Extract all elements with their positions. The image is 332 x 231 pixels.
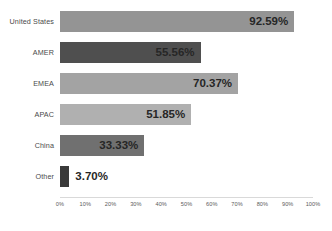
x-tick-90pct: 90%	[282, 201, 294, 207]
bar-track: 51.85%	[60, 104, 313, 125]
x-tick-70pct: 70%	[231, 201, 243, 207]
bar-other[interactable]	[60, 166, 69, 187]
bar-rows: United States 92.59% AMER 55.56% EMEA 70…	[0, 11, 332, 197]
bar-row: Other 3.70%	[0, 166, 332, 187]
category-label-china: China	[0, 135, 54, 156]
bar-row: EMEA 70.37%	[0, 73, 332, 94]
bar-track: 70.37%	[60, 73, 313, 94]
bar-value-united-states: 92.59%	[60, 11, 294, 32]
bar-value-other: 3.70%	[69, 166, 108, 187]
bar-row: AMER 55.56%	[0, 42, 332, 63]
x-tick-50pct: 50%	[181, 201, 193, 207]
x-axis-line	[60, 197, 313, 198]
bar-row: United States 92.59%	[0, 11, 332, 32]
bar-row: APAC 51.85%	[0, 104, 332, 125]
x-tick-30pct: 30%	[130, 201, 142, 207]
bar-row: China 33.33%	[0, 135, 332, 156]
category-label-united-states: United States	[0, 11, 54, 32]
bar-track: 33.33%	[60, 135, 313, 156]
category-label-amer: AMER	[0, 42, 54, 63]
category-label-apac: APAC	[0, 104, 54, 125]
bar-value-china: 33.33%	[60, 135, 144, 156]
bar-value-emea: 70.37%	[60, 73, 238, 94]
x-tick-80pct: 80%	[257, 201, 269, 207]
x-tick-60pct: 60%	[206, 201, 218, 207]
bar-track: 3.70%	[60, 166, 313, 187]
x-tick-40pct: 40%	[155, 201, 167, 207]
category-label-other: Other	[0, 166, 54, 187]
x-axis-tick-labels: 0%10%20%30%40%50%60%70%80%90%100%	[0, 201, 332, 213]
x-tick-10pct: 10%	[80, 201, 92, 207]
bar-value-apac: 51.85%	[60, 104, 191, 125]
category-label-emea: EMEA	[0, 73, 54, 94]
bar-value-amer: 55.56%	[60, 42, 201, 63]
bar-track: 92.59%	[60, 11, 313, 32]
x-tick-100pct: 100%	[306, 201, 321, 207]
bar-chart: United States 92.59% AMER 55.56% EMEA 70…	[0, 0, 332, 231]
x-tick-20pct: 20%	[105, 201, 117, 207]
x-tick-0pct: 0%	[56, 201, 64, 207]
bar-track: 55.56%	[60, 42, 313, 63]
